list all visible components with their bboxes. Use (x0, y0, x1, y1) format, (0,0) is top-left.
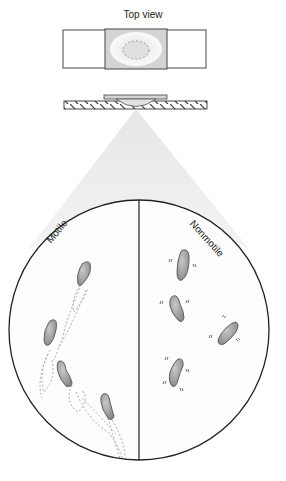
drop-outline (123, 41, 149, 59)
top-view (63, 29, 206, 69)
hanging-drop-diagram: Top view Motile Nonmotile (0, 0, 286, 481)
top-view-label: Top view (0, 9, 286, 20)
side-view (64, 95, 207, 109)
coverslip-side-view (104, 95, 167, 99)
